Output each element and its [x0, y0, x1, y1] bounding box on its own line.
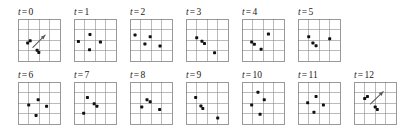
- grid-plot: [129, 81, 171, 123]
- grid-plot: [73, 18, 115, 60]
- data-point-marker: [315, 44, 318, 47]
- panel-label-value: 2: [140, 7, 145, 17]
- panel-label: t=1: [73, 6, 115, 18]
- grid-plot: [185, 81, 227, 123]
- panel-label-value: 6: [28, 70, 33, 80]
- panel-label: t=12: [353, 69, 395, 81]
- panel-t-5: t=5: [297, 6, 339, 60]
- grid-plot: [73, 81, 115, 123]
- panel-label-value: 4: [252, 7, 257, 17]
- data-point-marker: [45, 105, 48, 108]
- panel-label: t=6: [17, 69, 59, 81]
- data-point-marker: [140, 105, 143, 108]
- panel-t-10: t=10: [241, 69, 283, 123]
- data-point-marker: [366, 95, 369, 98]
- panel-t-2: t=2: [129, 6, 171, 60]
- grid-plot: [129, 18, 171, 60]
- panel-label: t=8: [129, 69, 171, 81]
- panel-t-4: t=4: [241, 6, 283, 60]
- panel-label: t=3: [185, 6, 227, 18]
- data-point-marker: [82, 112, 85, 115]
- data-point-marker: [376, 108, 379, 111]
- data-point-marker: [312, 111, 315, 114]
- panel-label-value: 12: [364, 70, 374, 80]
- data-point-marker: [35, 114, 38, 117]
- data-point-marker: [250, 103, 253, 106]
- data-point-marker: [99, 41, 102, 44]
- panel-row-bottom: t=6t=7t=8t=9t=10t=11t=12: [17, 69, 395, 123]
- panel-label: t=9: [185, 69, 227, 81]
- data-point-marker: [146, 98, 149, 101]
- data-point-marker: [88, 33, 91, 36]
- data-point-marker: [27, 103, 30, 106]
- data-point-marker: [134, 33, 137, 36]
- data-point-marker: [311, 41, 314, 44]
- data-point-marker: [158, 108, 161, 111]
- panel-label-value: 3: [196, 7, 201, 17]
- data-point-marker: [93, 102, 96, 105]
- panel-label: t=0: [17, 6, 59, 18]
- grid-plot: [297, 81, 339, 123]
- data-point-marker: [149, 35, 152, 38]
- data-point-marker: [260, 48, 263, 51]
- panel-label: t=11: [297, 69, 339, 81]
- panel-row-top: t=0t=1t=2t=3t=4t=5: [17, 6, 339, 60]
- panel-t-6: t=6: [17, 69, 59, 123]
- grid-plot: [241, 18, 283, 60]
- panel-label: t=5: [297, 6, 339, 18]
- data-point-marker: [200, 40, 203, 43]
- data-point-marker: [95, 105, 98, 108]
- data-point-marker: [213, 51, 216, 54]
- panel-label: t=4: [241, 6, 283, 18]
- panel-t-12: t=12: [353, 69, 395, 123]
- grid-plot: [17, 18, 59, 60]
- data-point-marker: [306, 101, 309, 104]
- panel-t-11: t=11: [297, 69, 339, 123]
- data-point-marker: [253, 43, 256, 46]
- data-point-marker: [195, 36, 198, 39]
- data-point-marker: [26, 41, 29, 44]
- data-point-marker: [203, 42, 206, 45]
- data-point-marker: [29, 39, 32, 42]
- panel-t-7: t=7: [73, 69, 115, 123]
- grid-plot: [353, 81, 395, 123]
- panel-label-value: 7: [84, 70, 89, 80]
- data-point-marker: [374, 105, 377, 108]
- data-point-marker: [216, 116, 219, 119]
- panel-t-8: t=8: [129, 69, 171, 123]
- panel-label-value: 10: [252, 70, 262, 80]
- grid-plot: [185, 18, 227, 60]
- data-point-marker: [201, 107, 204, 110]
- data-point-marker: [37, 98, 40, 101]
- panel-label: t=2: [129, 6, 171, 18]
- data-point-marker: [315, 95, 318, 98]
- data-point-marker: [194, 96, 197, 99]
- data-point-marker: [328, 37, 331, 40]
- panel-label-value: 1: [84, 7, 89, 17]
- panel-t-3: t=3: [185, 6, 227, 60]
- data-point-marker: [149, 100, 152, 103]
- grid-plot: [241, 81, 283, 123]
- panel-label-value: 8: [140, 70, 145, 80]
- data-point-marker: [88, 48, 91, 51]
- data-point-marker: [263, 98, 266, 101]
- panel-label-value: 9: [196, 70, 201, 80]
- data-point-marker: [322, 103, 325, 106]
- data-point-marker: [159, 45, 162, 48]
- panel-t-9: t=9: [185, 69, 227, 123]
- panel-t-0: t=0: [17, 6, 59, 60]
- data-point-marker: [143, 42, 146, 45]
- panel-label-value: 0: [28, 7, 33, 17]
- data-point-marker: [250, 40, 253, 43]
- data-point-marker: [86, 96, 89, 99]
- data-point-marker: [267, 33, 270, 36]
- panel-t-1: t=1: [73, 6, 115, 60]
- data-point-marker: [77, 40, 80, 43]
- data-point-marker: [363, 97, 366, 100]
- panel-label: t=10: [241, 69, 283, 81]
- panel-label-value: 5: [308, 7, 313, 17]
- timestep-grid-figure: t=0t=1t=2t=3t=4t=5 t=6t=7t=8t=9t=10t=11t…: [0, 0, 397, 134]
- grid-plot: [17, 81, 59, 123]
- data-point-marker: [307, 35, 310, 38]
- data-point-marker: [37, 51, 40, 54]
